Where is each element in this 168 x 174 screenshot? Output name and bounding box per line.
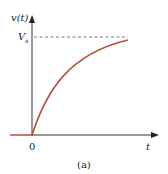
step-response-diagram: v(t) Vs 0 t (a) (0, 0, 168, 174)
figure-caption: (a) (77, 159, 91, 170)
x-axis-arrow-icon (151, 132, 159, 138)
origin-label: 0 (29, 141, 35, 152)
response-curve (10, 40, 128, 135)
y-axis-arrow-icon (29, 15, 35, 23)
x-axis-label: t (146, 141, 151, 152)
asymptote-label: Vs (18, 31, 28, 44)
asymptote-label-sub: s (25, 37, 28, 44)
y-axis-label: v(t) (11, 12, 29, 23)
